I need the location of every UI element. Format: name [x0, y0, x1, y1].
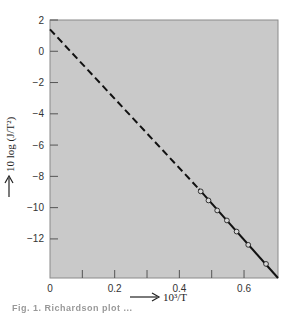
right-arrow-icon: [130, 293, 159, 301]
y-tick-label: 0: [38, 46, 44, 57]
y-tick-label: −4: [33, 108, 45, 119]
data-point: [264, 262, 269, 267]
y-tick-label: −12: [27, 233, 44, 244]
x-tick-label: 0: [47, 283, 53, 294]
richardson-plot: 20−2−4−6−8−10−12 00.20.40.6 10 log (J/T²…: [0, 0, 290, 313]
data-point: [225, 218, 230, 223]
x-axis-label: 10³/T: [163, 291, 187, 303]
y-tick-label: −2: [33, 77, 45, 88]
y-axis-label: 10 log (J/T²): [4, 116, 17, 172]
x-tick-label: 0.6: [237, 283, 251, 294]
data-point: [234, 229, 239, 234]
data-point: [215, 208, 220, 213]
y-tick-label: −10: [27, 202, 44, 213]
y-tick-label: −6: [33, 140, 45, 151]
figure-caption: Fig. 1. Richardson plot ...: [12, 303, 133, 313]
y-tick-label: −8: [33, 171, 45, 182]
y-tick-label: 2: [38, 15, 44, 26]
up-arrow-icon: [5, 176, 13, 197]
data-point: [246, 242, 251, 247]
x-tick-label: 0.2: [108, 283, 122, 294]
data-point: [206, 198, 211, 203]
data-point: [198, 189, 203, 194]
